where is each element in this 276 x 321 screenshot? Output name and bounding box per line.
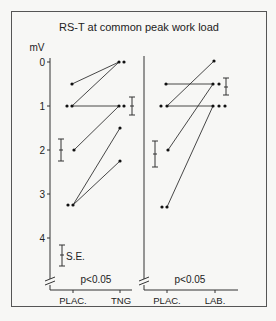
svg-text:4: 4 <box>39 233 45 244</box>
svg-text:1: 1 <box>39 101 45 112</box>
y-tick-labels: 0 1 2 3 4 <box>39 57 45 244</box>
svg-text:LAB.: LAB. <box>205 295 226 306</box>
svg-text:PLAC.: PLAC. <box>153 295 180 306</box>
y-unit-label: mV <box>30 42 45 53</box>
chart: RS-T at common peak work load mV 0 1 2 3… <box>0 0 276 321</box>
left-panel-lines <box>72 62 120 205</box>
svg-text:0: 0 <box>39 57 45 68</box>
svg-text:PLAC.: PLAC. <box>59 295 86 306</box>
svg-text:TNG: TNG <box>111 295 131 306</box>
right-y-axis <box>139 56 238 293</box>
right-panel-points <box>159 59 226 208</box>
se-legend-label: S.E. <box>66 251 85 262</box>
x-tick-labels: PLAC. TNG PLAC. LAB. <box>59 295 225 306</box>
right-panel-lines <box>166 61 214 207</box>
left-y-axis <box>45 58 132 293</box>
svg-text:3: 3 <box>39 189 45 200</box>
chart-title: RS-T at common peak work load <box>59 21 219 33</box>
svg-text:2: 2 <box>39 145 45 156</box>
right-p-value: p<0.05 <box>175 274 206 285</box>
left-p-value: p<0.05 <box>81 274 112 285</box>
